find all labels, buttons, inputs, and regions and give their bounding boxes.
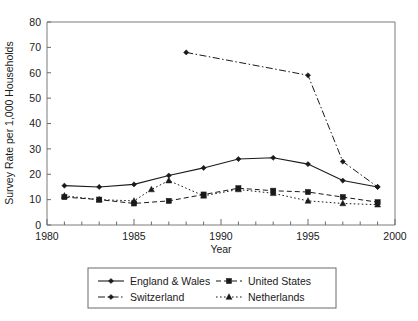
series-markers-3 <box>61 177 380 207</box>
data-point-marker <box>166 177 172 183</box>
series-markers-1 <box>62 186 380 206</box>
data-point-marker <box>108 278 113 283</box>
x-axis-tick-labels: 19801985199019952000 <box>35 230 407 242</box>
y-tick-label: 0 <box>35 219 41 231</box>
y-tick-label: 10 <box>29 193 41 205</box>
y-tick-label: 50 <box>29 92 41 104</box>
legend-item-2[interactable]: Switzerland <box>98 291 184 303</box>
legend-item-1[interactable]: United States <box>216 275 311 287</box>
data-point-marker <box>340 200 346 206</box>
x-tick-label: 2000 <box>383 230 407 242</box>
data-point-marker <box>340 194 345 199</box>
y-tick-label: 20 <box>29 168 41 180</box>
y-tick-label: 60 <box>29 67 41 79</box>
x-tick-label: 1985 <box>122 230 146 242</box>
series-markers-0 <box>62 155 380 189</box>
chart-data-markers <box>61 50 380 207</box>
data-point-marker <box>271 155 276 160</box>
data-point-marker <box>131 182 136 187</box>
legend-label-3: Netherlands <box>248 291 305 303</box>
data-point-marker <box>201 165 206 170</box>
legend-label-1: United States <box>248 275 311 287</box>
series-line-3 <box>64 181 377 205</box>
data-point-marker <box>226 294 232 300</box>
data-point-marker <box>166 198 171 203</box>
y-tick-label: 30 <box>29 143 41 155</box>
x-tick-label: 1990 <box>209 230 233 242</box>
data-point-marker <box>340 178 345 183</box>
data-point-marker <box>184 50 189 55</box>
y-axis-tick-labels: 01020304050607080 <box>29 16 41 231</box>
series-line-1 <box>64 188 377 203</box>
x-tick-label: 1995 <box>296 230 320 242</box>
y-tick-label: 40 <box>29 117 41 129</box>
data-point-marker <box>108 294 113 299</box>
data-point-marker <box>305 73 310 78</box>
y-axis-title: Survey Rate per 1,000 Households <box>3 41 15 204</box>
data-point-marker <box>305 189 310 194</box>
series-line-0 <box>64 158 377 187</box>
legend-item-3[interactable]: Netherlands <box>216 291 305 303</box>
data-point-marker <box>305 162 310 167</box>
x-axis-title: Year <box>210 243 232 255</box>
chart-container: 01020304050607080 19801985199019952000 S… <box>0 0 418 321</box>
y-tick-label: 70 <box>29 41 41 53</box>
data-point-marker <box>62 183 67 188</box>
data-point-marker <box>226 278 231 283</box>
data-point-marker <box>148 186 154 192</box>
chart-legend: England & WalesUnited StatesSwitzerlandN… <box>88 268 336 308</box>
data-point-marker <box>97 184 102 189</box>
data-point-marker <box>131 198 137 204</box>
line-chart-svg: 01020304050607080 19801985199019952000 S… <box>0 0 418 321</box>
x-tick-label: 1980 <box>35 230 59 242</box>
legend-label-2: Switzerland <box>130 291 184 303</box>
series-line-2 <box>186 52 377 186</box>
legend-item-0[interactable]: England & Wales <box>98 275 210 287</box>
y-tick-label: 80 <box>29 16 41 28</box>
data-point-marker <box>236 156 241 161</box>
legend-label-0: England & Wales <box>130 275 210 287</box>
chart-series-lines <box>64 52 377 204</box>
